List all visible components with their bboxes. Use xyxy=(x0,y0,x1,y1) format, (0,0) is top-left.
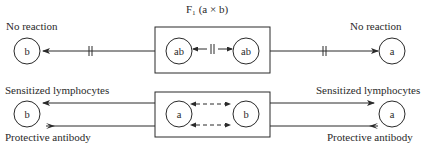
bottom-left-bottom-label: Protective antibody xyxy=(5,131,91,143)
bottom-box-dashed-arrows xyxy=(190,102,230,128)
bottom-box-cell-b: b xyxy=(233,101,259,127)
bottom-left-cell-b: b xyxy=(14,101,40,127)
bottom-right-cell-text: a xyxy=(390,109,395,120)
top-left-blocked-arrow xyxy=(43,46,155,56)
top-box-f1 xyxy=(155,27,270,73)
top-left-cell-text: b xyxy=(24,46,29,57)
bottom-right-bottom-label: Protective antibody xyxy=(327,131,413,143)
top-right-cell-a: a xyxy=(379,38,405,64)
top-right-label: No reaction xyxy=(350,20,402,32)
top-box-blocked-bidirectional-arrow xyxy=(193,44,232,54)
bottom-box-cell-text-right: b xyxy=(243,109,248,120)
bottom-left-cell-text: b xyxy=(24,109,29,120)
bottom-box-cell-text-left: a xyxy=(177,109,182,120)
top-left-cell-b: b xyxy=(14,38,40,64)
bottom-box-cell-a: a xyxy=(166,101,192,127)
top-box-cell-ab-right: ab xyxy=(233,38,259,64)
bottom-box-f1 xyxy=(155,92,270,137)
bottom-left-top-label: Sensitized lymphocytes xyxy=(5,84,109,96)
top-box-cell-text-right: ab xyxy=(241,46,251,57)
top-right-blocked-arrow xyxy=(270,46,378,56)
top-left-label: No reaction xyxy=(6,20,58,32)
bottom-right-top-label: Sensitized lymphocytes xyxy=(316,84,420,96)
diagram-title: F₁ (a × b) xyxy=(186,3,228,15)
top-box-cell-text-left: ab xyxy=(174,46,184,57)
bottom-right-cell-a: a xyxy=(379,101,405,127)
top-box-cell-ab-left: ab xyxy=(166,38,192,64)
top-right-cell-text: a xyxy=(390,46,395,57)
